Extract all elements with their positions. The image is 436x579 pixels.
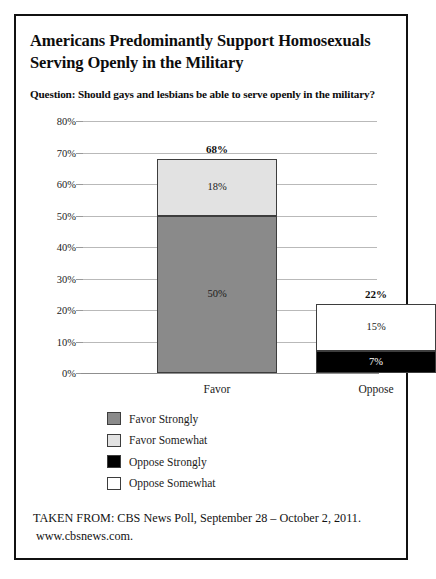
legend-item[interactable]: Favor Somewhat — [107, 430, 216, 452]
legend-item[interactable]: Favor Strongly — [107, 408, 216, 430]
y-axis-tick-label: 40% — [57, 242, 76, 253]
y-axis-tick-label: 70% — [57, 147, 76, 158]
bar-group-favor[interactable]: 50%18%68%Favor — [157, 159, 277, 373]
source-block: TAKEN FROM: CBS News Poll, September 28 … — [33, 510, 389, 545]
legend-swatch — [107, 412, 121, 425]
axis-tick — [76, 247, 83, 248]
y-axis-tick-label: 30% — [57, 273, 76, 284]
bar-total-label: 68% — [157, 143, 277, 155]
y-axis-tick-label: 60% — [57, 179, 76, 190]
legend-label: Oppose Strongly — [129, 456, 207, 468]
bar-segment-oppose-somewhat[interactable]: 15% — [316, 304, 436, 351]
axis-tick — [76, 216, 83, 217]
y-axis-tick-label: 0% — [62, 368, 76, 379]
y-axis-tick-label: 20% — [57, 305, 76, 316]
bar-segment-favor-somewhat[interactable]: 18% — [157, 159, 277, 216]
axis-tick — [76, 153, 83, 154]
axis-baseline — [81, 373, 379, 374]
chart-page-frame: Americans Predominantly Support Homosexu… — [14, 14, 408, 560]
bar-segment-value: 7% — [369, 357, 383, 368]
y-axis-tick-label: 10% — [57, 336, 76, 347]
axis-tick — [76, 279, 83, 280]
bar-segment-value: 50% — [207, 289, 226, 300]
plot-area: 0%10%20%30%40%50%60%70%80% 50%18%68%Favo… — [83, 121, 377, 373]
y-axis-tick-label: 80% — [57, 116, 76, 127]
bar-total-label: 22% — [316, 288, 436, 300]
chart-legend: Favor StronglyFavor SomewhatOppose Stron… — [107, 408, 216, 494]
legend-label: Favor Strongly — [129, 413, 198, 425]
source-line-2: www.cbsnews.com. — [33, 528, 389, 546]
axis-tick — [76, 121, 83, 122]
gridline — [83, 121, 377, 122]
bar-segment-value: 18% — [207, 182, 226, 193]
legend-swatch — [107, 434, 121, 447]
legend-item[interactable]: Oppose Somewhat — [107, 473, 216, 495]
axis-tick — [76, 342, 83, 343]
legend-label: Favor Somewhat — [129, 434, 207, 446]
x-axis-category-label: Favor — [157, 383, 277, 395]
axis-tick — [76, 310, 83, 311]
y-axis-tick-label: 50% — [57, 210, 76, 221]
source-line-1: TAKEN FROM: CBS News Poll, September 28 … — [33, 510, 389, 528]
legend-item[interactable]: Oppose Strongly — [107, 451, 216, 473]
bar-segment-value: 15% — [366, 322, 385, 333]
axis-tick — [76, 184, 83, 185]
legend-swatch — [107, 455, 121, 468]
legend-swatch — [107, 477, 121, 490]
bar-group-oppose[interactable]: 7%15%22%Oppose — [316, 304, 436, 373]
x-axis-category-label: Oppose — [316, 383, 436, 395]
bar-segment-favor-strongly[interactable]: 50% — [157, 216, 277, 374]
bar-segment-oppose-strongly[interactable]: 7% — [316, 351, 436, 373]
legend-label: Oppose Somewhat — [129, 477, 216, 489]
